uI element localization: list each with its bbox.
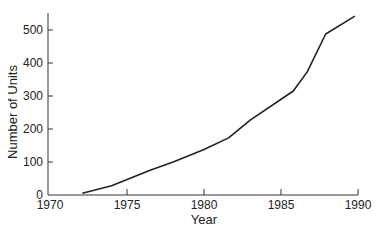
y-axis-title: Number of Units [5, 65, 20, 159]
y-tick-label: 100 [23, 155, 43, 169]
y-tick-label: 500 [23, 23, 43, 37]
x-tick-label: 1975 [114, 198, 141, 212]
axis-ticks: 010020030040050019701975198019851990 [23, 23, 372, 212]
x-axis-title: Year [191, 212, 218, 227]
y-tick-label: 300 [23, 89, 43, 103]
x-tick-label: 1990 [345, 198, 372, 212]
x-tick-label: 1985 [268, 198, 295, 212]
y-tick-label: 400 [23, 56, 43, 70]
x-tick-label: 1970 [37, 198, 64, 212]
axes [48, 13, 358, 195]
data-line [82, 16, 355, 193]
x-tick-label: 1980 [191, 198, 218, 212]
line-chart: 010020030040050019701975198019851990 Yea… [0, 0, 379, 235]
y-tick-label: 200 [23, 122, 43, 136]
